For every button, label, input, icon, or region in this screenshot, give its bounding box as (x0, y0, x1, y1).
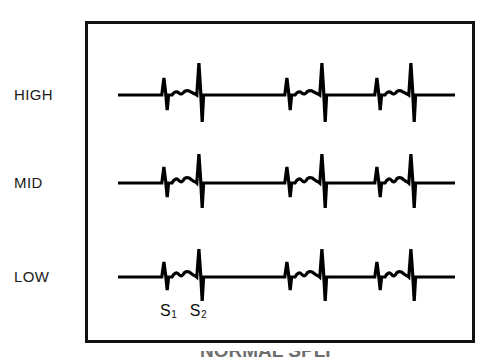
phonocardiogram-figure: HIGH MID LOW S1S2 NORMAL SPLI (0, 0, 494, 362)
caption-cropped: NORMAL SPLI (0, 351, 494, 362)
row-label-high-text: HIGH (14, 86, 53, 103)
s1-letter: S (160, 302, 171, 319)
s2-subscript: 2 (200, 309, 206, 320)
caption-text: NORMAL SPLI (200, 351, 331, 362)
row-label-low-text: LOW (14, 268, 49, 285)
heart-sound-labels: S1S2 (160, 303, 219, 319)
s1-subscript: 1 (171, 309, 177, 320)
s2-letter: S (190, 302, 201, 319)
row-label-low: LOW (14, 269, 80, 284)
s1-label: S1 (160, 302, 177, 319)
s2-label: S2 (190, 302, 207, 319)
row-label-mid-text: MID (14, 174, 43, 191)
row-label-mid: MID (14, 175, 80, 190)
row-label-high: HIGH (14, 87, 80, 102)
plot-frame (85, 21, 475, 343)
